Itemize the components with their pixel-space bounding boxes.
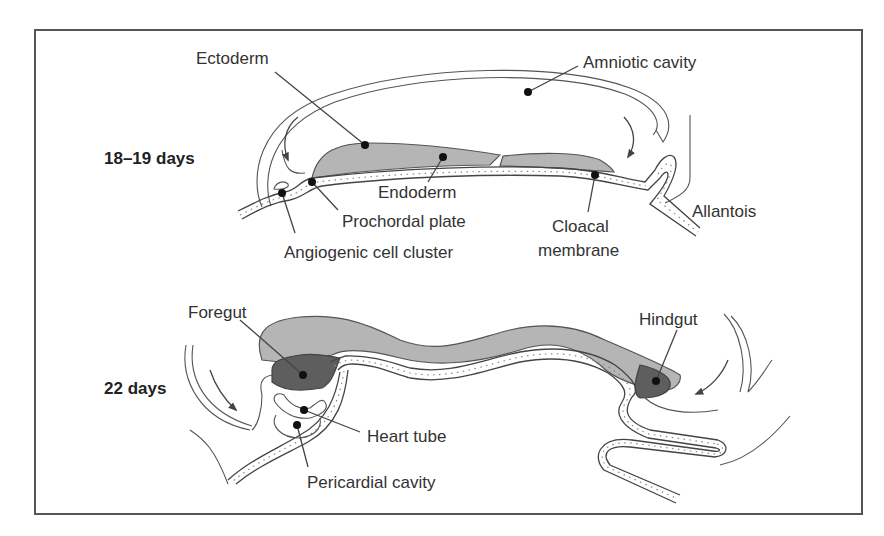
ectoderm-layer-caudal	[500, 153, 614, 172]
cloacal-membrane-leader	[588, 175, 595, 212]
hindgut-label: Hindgut	[639, 310, 698, 329]
foregut-label: Foregut	[188, 303, 247, 322]
angiogenic-marker	[278, 189, 286, 197]
caudal-loop	[598, 440, 726, 503]
heart-tube-label: Heart tube	[367, 427, 446, 446]
pericardial-cavity-marker	[293, 421, 301, 429]
allantois-label: Allantois	[692, 202, 756, 221]
angiogenic-cell-cluster-label: Angiogenic cell cluster	[284, 243, 453, 262]
ectoderm-marker	[361, 141, 369, 149]
pericardial-cavity-label: Pericardial cavity	[307, 473, 436, 492]
foregut-shape	[272, 354, 340, 390]
ectoderm-label: Ectoderm	[196, 49, 269, 68]
amniotic-cavity-label: Amniotic cavity	[583, 53, 697, 72]
ectoderm-leader	[275, 72, 365, 145]
caudal-fold-arrow	[624, 117, 634, 157]
heart-tube-marker	[300, 406, 308, 414]
hindgut-marker	[652, 377, 660, 385]
foregut-marker	[299, 371, 307, 379]
cloacal-membrane-label-line2: membrane	[538, 241, 619, 260]
stage-label-22-days: 22 days	[104, 379, 166, 398]
heart-tube-leader	[304, 410, 360, 432]
prochordal-plate-label: Prochordal plate	[342, 212, 466, 231]
panel-18-19-days: 18–19 days Ectoderm Amniotic cavity Endo…	[104, 49, 756, 262]
endoderm-label: Endoderm	[378, 183, 456, 202]
caudal-fold-arrow-22	[696, 360, 728, 394]
amniotic-cavity-marker	[524, 88, 532, 96]
ectoderm-layer	[312, 143, 500, 178]
panel-22-days: 22 days Foregut Hindgut Heart tube Peric…	[104, 303, 790, 503]
angiogenic-cell-cluster-shape	[274, 182, 288, 189]
endoderm-marker	[439, 153, 447, 161]
embryo-folding-diagram: 18–19 days Ectoderm Amniotic cavity Endo…	[0, 0, 884, 536]
prochordal-plate-marker	[308, 178, 316, 186]
cranial-fold-arrow	[285, 117, 298, 160]
cloacal-membrane-marker	[591, 171, 599, 179]
stage-label-18-19-days: 18–19 days	[104, 149, 195, 168]
cloacal-membrane-label-line1: Cloacal	[552, 217, 609, 236]
cranial-fold-arrow-22	[210, 370, 236, 410]
